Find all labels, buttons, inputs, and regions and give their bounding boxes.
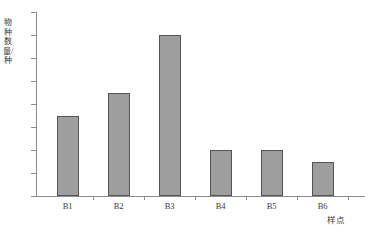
y-axis-line [36, 12, 37, 197]
x-axis-tick [93, 196, 94, 200]
bar [159, 35, 181, 196]
y-axis-tick [31, 127, 36, 128]
y-axis-tick [31, 58, 36, 59]
y-axis-tick [31, 196, 36, 197]
bar [312, 162, 334, 197]
x-axis-tick [297, 196, 298, 200]
y-axis-tick [31, 12, 36, 13]
bar [108, 93, 130, 197]
x-axis-line [36, 196, 365, 197]
y-axis-tick [31, 150, 36, 151]
x-axis-tick [144, 196, 145, 200]
x-axis-tick-label: B6 [303, 201, 343, 211]
x-axis-tick-label: B5 [252, 201, 292, 211]
x-axis-tick-label: B4 [201, 201, 241, 211]
x-axis-tick [348, 196, 349, 200]
bar [261, 150, 283, 196]
x-axis-tick [246, 196, 247, 200]
y-axis-title: 物种数量/种 [2, 18, 14, 66]
y-axis-tick [31, 35, 36, 36]
x-axis-tick-label: B1 [48, 201, 88, 211]
x-axis-title: 样点 [327, 215, 345, 225]
bar-chart: 物种数量/种 0246810121416 B1B2B3B4B5B6 样点 [0, 0, 379, 243]
y-axis-tick [31, 104, 36, 105]
y-axis-tick [31, 173, 36, 174]
x-axis-tick [195, 196, 196, 200]
x-axis-tick-label: B2 [99, 201, 139, 211]
y-axis-tick [31, 81, 36, 82]
x-axis-tick-label: B3 [150, 201, 190, 211]
bar [57, 116, 79, 197]
bar [210, 150, 232, 196]
